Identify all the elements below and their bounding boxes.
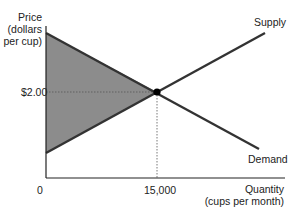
chart-canvas: [0, 0, 293, 208]
price-tick-label: $2.00: [21, 86, 47, 98]
origin-label: 0: [37, 184, 43, 196]
y-label-line1: Price: [3, 11, 42, 23]
x-label-line1: Quantity: [205, 183, 284, 195]
total-surplus-area: [46, 33, 157, 153]
supply-label: Supply: [254, 16, 286, 28]
x-label-line2: (cups per month): [205, 195, 284, 207]
x-axis-label: Quantity (cups per month): [205, 183, 284, 207]
demand-label: Demand: [248, 153, 288, 165]
y-label-line2: (dollars: [3, 23, 42, 35]
quantity-tick-label: 15,000: [144, 184, 176, 196]
y-axis-label: Price (dollars per cup): [3, 11, 42, 47]
y-label-line3: per cup): [3, 35, 42, 47]
equilibrium-point: [153, 88, 160, 95]
